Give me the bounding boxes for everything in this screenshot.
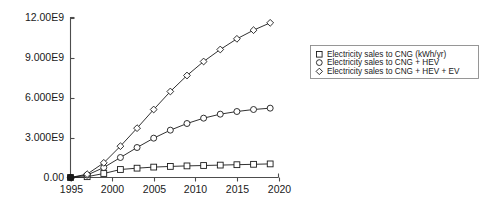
y-tick-label: 12.00E9: [25, 11, 64, 23]
data-point-circle: [151, 135, 157, 141]
x-tick-label: 2015: [226, 183, 250, 195]
x-tick-label: 2005: [143, 183, 167, 195]
x-tick-label: 2000: [101, 183, 125, 195]
legend: Electricity sales to CNG (kWh/yr) Electr…: [311, 46, 479, 79]
data-point-circle: [217, 111, 223, 117]
legend-label: Electricity sales to CNG + HEV: [327, 58, 440, 67]
square-marker-icon: [317, 52, 323, 58]
y-tick-label: 0.00: [44, 171, 65, 183]
data-point-square: [217, 162, 223, 168]
data-point-square: [234, 162, 240, 168]
data-point-square: [251, 161, 257, 167]
data-point-circle: [234, 109, 240, 115]
data-point-circle: [184, 121, 190, 127]
data-point-square: [267, 161, 273, 167]
data-point-square: [167, 164, 173, 170]
x-tick-label: 2010: [184, 183, 208, 195]
data-point-square: [201, 163, 207, 169]
legend-item-cng-hev-ev[interactable]: Electricity sales to CNG + HEV + EV: [316, 67, 460, 76]
data-point-square: [118, 167, 124, 173]
data-point-circle: [201, 115, 207, 121]
y-tick-label: 6.000E9: [25, 91, 64, 103]
data-point-square: [184, 163, 190, 169]
data-point-circle: [251, 107, 257, 113]
legend-item-cng-hev[interactable]: Electricity sales to CNG + HEV: [316, 58, 439, 67]
data-point-circle: [167, 127, 173, 133]
circle-marker-icon: [316, 60, 322, 66]
y-tick-label: 3.000E9: [25, 131, 64, 143]
data-point-square: [101, 171, 107, 177]
data-point-circle: [117, 155, 123, 161]
data-point-square: [151, 164, 157, 170]
data-point-circle: [134, 145, 140, 151]
line-chart: 12.00E9 9.000E9 6.000E9 3.000E9 0.00 199…: [0, 0, 486, 208]
x-tick-label: 1995: [60, 183, 84, 195]
x-tick-label: 2020: [268, 183, 292, 195]
data-point-square: [134, 165, 140, 171]
data-point-circle: [267, 105, 273, 111]
y-tick-label: 9.000E9: [25, 51, 64, 63]
legend-label: Electricity sales to CNG + HEV + EV: [327, 67, 460, 76]
